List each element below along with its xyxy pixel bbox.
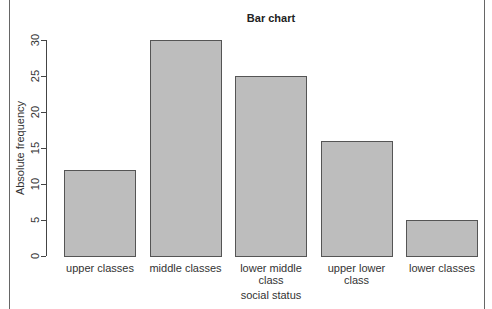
category-label-line: class — [312, 274, 402, 286]
y-tick — [41, 112, 46, 113]
x-category-label: middle classes — [141, 262, 231, 274]
y-tick — [41, 76, 46, 77]
chart-title: Bar chart — [0, 12, 492, 24]
x-category-label: upper classes — [55, 262, 145, 274]
category-label-line: lower middle — [226, 262, 316, 274]
y-axis-label: Absolute frequency — [14, 101, 26, 195]
y-tick-label: 0 — [29, 253, 41, 259]
y-tick-label: 15 — [29, 142, 41, 154]
y-tick — [41, 40, 46, 41]
bar — [406, 220, 478, 257]
y-tick — [41, 220, 46, 221]
y-tick — [41, 184, 46, 185]
y-tick — [41, 148, 46, 149]
y-tick-label: 20 — [29, 106, 41, 118]
category-label-line: class — [226, 274, 316, 286]
y-tick-label: 5 — [29, 217, 41, 223]
x-category-label: upper lowerclass — [312, 262, 402, 286]
bar — [150, 40, 222, 257]
y-tick-label: 25 — [29, 70, 41, 82]
x-category-label: lower middleclass — [226, 262, 316, 286]
y-tick-label: 30 — [29, 34, 41, 46]
bar — [64, 170, 136, 257]
bar — [235, 76, 307, 257]
y-tick-label: 10 — [29, 178, 41, 190]
category-label-line: lower classes — [397, 262, 487, 274]
category-label-line: upper classes — [55, 262, 145, 274]
x-axis-label: social status — [235, 289, 307, 301]
bar — [321, 141, 393, 257]
y-axis-line — [46, 40, 47, 256]
frame-border-left — [9, 0, 10, 309]
x-category-label: lower classes — [397, 262, 487, 274]
y-tick — [41, 256, 46, 257]
category-label-line: upper lower — [312, 262, 402, 274]
category-label-line: middle classes — [141, 262, 231, 274]
